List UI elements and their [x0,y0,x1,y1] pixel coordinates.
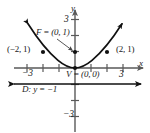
x-tick-label-neg3: −3 [22,69,33,79]
x-axis-label: x [139,59,143,68]
focus-label: F = (0, 1) [36,28,70,37]
focus-point [73,50,77,54]
x-tick-label-3: 3 [119,70,124,80]
directrix-label: D: y = −1 [22,85,57,94]
point-left-label: (−2, 1) [7,45,30,54]
point-right [105,50,109,54]
y-axis-label: y [71,4,75,13]
parabola-figure: y x 3 −3 −3 3 F = (0, 1) V = (0, 0) (−2,… [0,0,150,133]
y-tick-label-neg3: −3 [63,110,74,120]
vertex-label: V = (0, 0) [66,70,99,79]
y-tick-label-3: 3 [64,15,69,25]
point-left [41,50,45,54]
focus-leader-line [57,39,73,51]
point-right-label: (2, 1) [116,45,134,54]
graph-canvas [0,0,150,133]
